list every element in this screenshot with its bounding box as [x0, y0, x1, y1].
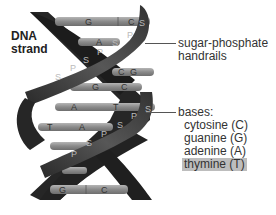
base-thymine-highlighted: thymine (T) — [182, 158, 247, 171]
svg-text:P: P — [131, 111, 137, 121]
svg-text:G: G — [92, 82, 99, 92]
svg-text:P: P — [70, 63, 76, 73]
svg-text:G: G — [85, 17, 92, 27]
svg-text:G: G — [59, 185, 66, 195]
svg-text:S: S — [112, 38, 118, 48]
svg-text:S: S — [55, 72, 61, 82]
svg-text:G: G — [130, 67, 137, 77]
title-line-2: strand — [11, 43, 48, 56]
svg-text:C: C — [121, 82, 128, 92]
svg-text:P: P — [127, 30, 133, 40]
svg-text:T: T — [47, 122, 53, 132]
diagram-title: DNA strand — [11, 30, 48, 56]
svg-text:S: S — [86, 138, 92, 148]
bases-label: bases: cytosine (C) guanine (G) adenine … — [178, 106, 248, 171]
svg-text:A: A — [79, 122, 85, 132]
svg-text:C: C — [118, 67, 125, 77]
svg-text:P: P — [101, 129, 107, 139]
svg-text:A: A — [96, 37, 102, 47]
sugar-phosphate-leader-line — [145, 43, 176, 44]
bases-leader-line — [146, 112, 176, 113]
svg-text:S: S — [83, 55, 89, 65]
svg-text:A: A — [71, 102, 77, 112]
svg-text:S: S — [117, 120, 123, 130]
svg-text:T: T — [113, 102, 119, 112]
svg-text:C: C — [128, 17, 135, 27]
svg-text:P: P — [97, 47, 103, 57]
sugar-phosphate-label: sugar-phosphate handrails — [178, 37, 268, 63]
svg-text:P: P — [71, 149, 77, 159]
sugar-phosphate-label-line-2: handrails — [178, 50, 268, 63]
svg-text:S: S — [139, 18, 145, 28]
